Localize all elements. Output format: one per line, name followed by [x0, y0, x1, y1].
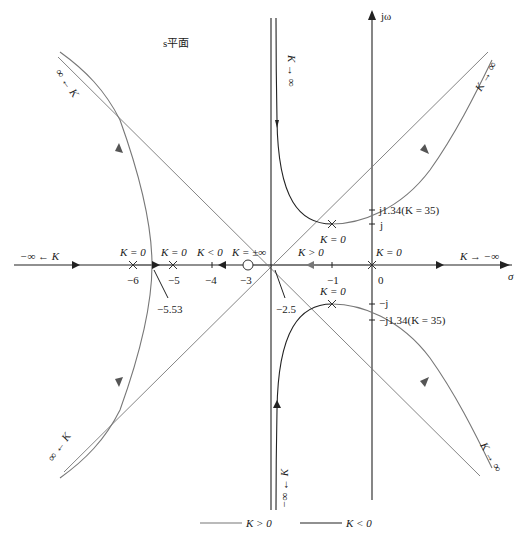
- k-to-inf-top-label: K → ∞: [286, 54, 298, 87]
- arrow-breakaway-icon: [152, 261, 160, 269]
- tick-label-neg-j: −j: [379, 297, 388, 309]
- imag-axis-label: jω: [380, 10, 391, 22]
- locus-branch-pos-lower-right: [332, 304, 492, 468]
- k-pos-mid-label: K > 0: [297, 246, 324, 258]
- tick-label-neg5: −5: [168, 274, 180, 286]
- imag-axis-arrow-icon: [368, 10, 376, 20]
- pole-label-lower: K = 0: [319, 285, 346, 297]
- centroid-pointer: [275, 270, 285, 298]
- neg-inf-left-label: −∞ ← K: [20, 250, 60, 262]
- arrow-upper-left-icon: [115, 143, 123, 153]
- arrow-lower-right-icon: [420, 377, 429, 387]
- asymptote-nw-se: [58, 57, 480, 476]
- locus-branch-pos-lower-left: [60, 265, 152, 478]
- arrow-k-neg-inf-icon: [436, 261, 444, 269]
- tick-label-neg-j134: −j1.34(K = 35): [379, 314, 446, 327]
- k-to-inf-lower-left-label: ∞ ← K: [45, 430, 73, 463]
- s-plane-title: s平面: [163, 37, 189, 49]
- locus-branch-pos-upper-right: [332, 60, 492, 224]
- k-to-inf-upper-left-label: ∞ ← K: [53, 66, 81, 99]
- breakaway-pointer: [154, 270, 168, 298]
- tick-label-j: j: [379, 219, 383, 231]
- k-to-inf-lower-right-label: K → ∞: [478, 439, 505, 473]
- tick-label-neg4: −4: [205, 274, 217, 286]
- tick-label-neg3: −3: [240, 274, 252, 286]
- locus-branch-neg-upper: [276, 18, 332, 224]
- arrow-vertical-down-icon: [275, 120, 279, 128]
- k-to-neg-inf-bottom-label: −∞ ← K: [278, 468, 290, 508]
- k-neg-left-label: K < 0: [196, 246, 223, 258]
- arrow-real-left-icon: [72, 261, 80, 269]
- pole-label-origin: K = 0: [375, 246, 402, 258]
- pole-label-neg6: K = 0: [119, 246, 146, 258]
- pole-label-neg5: K = 0: [160, 246, 187, 258]
- arrow-lower-left-icon: [115, 377, 123, 387]
- zero-neg3-icon: [243, 260, 253, 270]
- breakaway-label: −5.53: [157, 303, 183, 315]
- arrow-upper-right-icon: [420, 144, 429, 154]
- asymptote-sw-ne: [64, 52, 488, 472]
- arrow-vertical-up-icon: [273, 400, 281, 408]
- zero-label: K = ±∞: [231, 246, 266, 258]
- tick-label-neg6: −6: [127, 274, 139, 286]
- real-axis-label: σ: [508, 270, 514, 282]
- real-axis-arrow-icon: [500, 261, 510, 269]
- pole-label-upper: K = 0: [319, 233, 346, 245]
- k-neg-inf-right-label: K → −∞: [459, 250, 499, 262]
- arrow-pos-k-left-icon: [306, 261, 314, 269]
- tick-label-0: 0: [378, 274, 384, 286]
- legend-negative-label: K < 0: [345, 517, 372, 529]
- legend-positive-label: K > 0: [245, 517, 272, 529]
- root-locus-diagram: s平面 jω σ: [0, 0, 517, 540]
- arrow-neg-k-left-icon: [218, 261, 226, 269]
- tick-label-j134: j1.34(K = 35): [378, 204, 440, 217]
- centroid-label: −2.5: [276, 303, 296, 315]
